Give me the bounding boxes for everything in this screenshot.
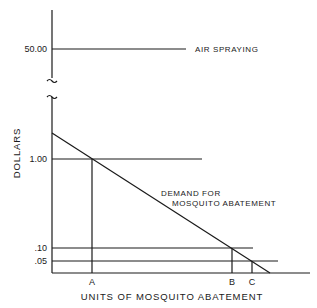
demand-chart: 50.00 1.00 .10 .05 DOLLARS A B C UNITS O…	[0, 0, 317, 308]
x-axis-title: UNITS OF MOSQUITO ABATEMENT	[81, 291, 263, 302]
axis-break-icon	[47, 80, 57, 83]
y-axis-title: DOLLARS	[11, 128, 22, 179]
demand-label-line2: MOSQUITO ABATEMENT	[172, 199, 276, 208]
air-spraying-label: AIR SPRAYING	[195, 45, 259, 54]
y-tick-010: .10	[34, 243, 47, 253]
y-tick-1: 1.00	[29, 154, 47, 164]
demand-label-line1: DEMAND FOR	[161, 189, 221, 198]
y-tick-50: 50.00	[24, 44, 47, 54]
y-tick-005: .05	[34, 256, 47, 266]
x-tick-c: C	[249, 277, 256, 287]
x-tick-a: A	[89, 277, 95, 287]
x-tick-b: B	[229, 277, 235, 287]
